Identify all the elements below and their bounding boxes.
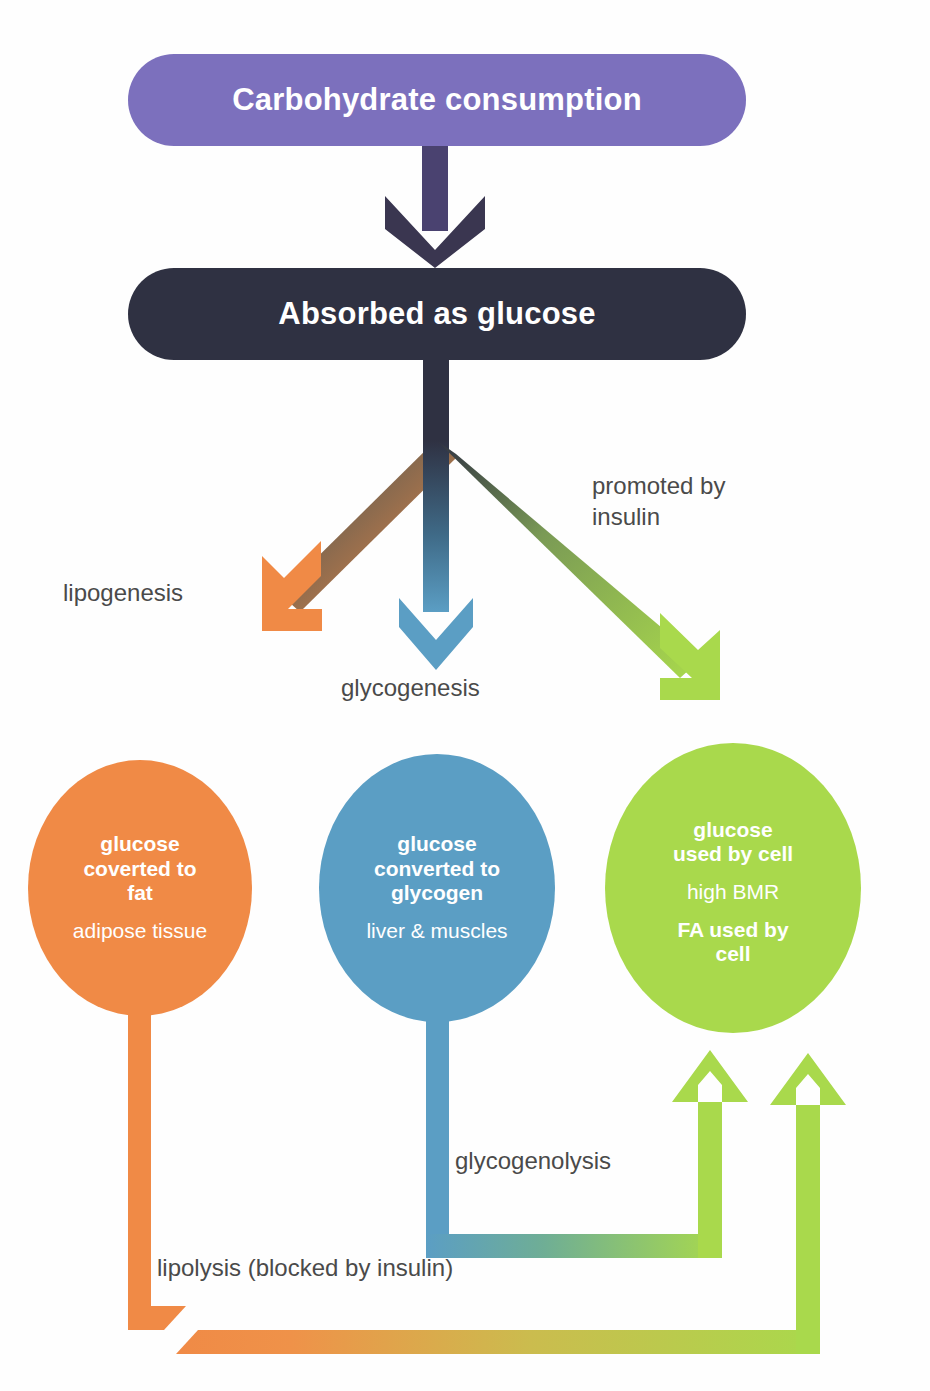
glycogenolysis-path	[426, 1006, 449, 1234]
glycogenolysis-label: glycogenolysis	[455, 1146, 611, 1177]
cell-circle-line-1: glucose	[693, 818, 772, 842]
glycogen-circle-line-2: converted to	[374, 857, 500, 881]
lipolysis-label: lipolysis (blocked by insulin)	[157, 1253, 453, 1284]
cell-circle-line-2: used by cell	[673, 842, 793, 866]
fat-circle-line-3: fat	[127, 881, 153, 905]
glycogen-circle-line-3: glycogen	[391, 881, 483, 905]
cell-circle-subtitle: high BMR	[687, 880, 779, 904]
fat-circle-line-1: glucose	[100, 832, 179, 856]
lipolysis-arrow-head	[770, 1053, 846, 1105]
glycogenesis-arrow	[423, 440, 449, 612]
fat-circle-line-2: coverted to	[83, 857, 196, 881]
carbohydrate-consumption-box	[128, 54, 746, 146]
fat-circle-subtitle: adipose tissue	[73, 919, 207, 943]
cell-circle-line-3: FA used by	[677, 918, 788, 942]
glycogenolysis-bottom-run	[426, 1234, 722, 1258]
glycogen-circle-line-1: glucose	[397, 832, 476, 856]
purple-arrow-stem	[422, 146, 448, 231]
absorbed-as-glucose-box	[128, 268, 746, 360]
glycogenolysis-riser	[698, 1102, 722, 1258]
glycogen-circle-text: glucose converted to glycogen liver & mu…	[319, 776, 555, 1000]
diagram-canvas: Carbohydrate consumption Absorbed as glu…	[0, 0, 930, 1391]
lipolysis-riser	[796, 1105, 820, 1354]
glycogenesis-label: glycogenesis	[341, 673, 480, 704]
glycogenolysis-arrow-head	[672, 1050, 748, 1102]
lipogenesis-label: lipogenesis	[63, 578, 183, 609]
lipolysis-elbow	[128, 1306, 186, 1330]
lipolysis-bottom-run	[176, 1330, 820, 1354]
cell-circle-text: glucose used by cell high BMR FA used by…	[609, 780, 857, 1004]
glycogen-circle-subtitle: liver & muscles	[366, 919, 507, 943]
fat-circle-text: glucose coverted to fat adipose tissue	[28, 776, 252, 1000]
trunk-stem	[423, 360, 449, 450]
cell-circle-line-4: cell	[715, 942, 750, 966]
promoted-by-insulin-label: promoted by insulin	[592, 471, 725, 532]
lipolysis-path	[128, 1000, 151, 1306]
